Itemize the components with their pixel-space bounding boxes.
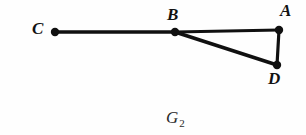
vertex-b [171, 28, 179, 36]
edge-a-d [277, 30, 279, 65]
graph-figure: A B C D G2 [0, 0, 306, 135]
figure-caption-base: G [166, 108, 178, 127]
figure-caption: G2 [166, 109, 185, 129]
edge-b-d [175, 32, 277, 65]
vertex-d [273, 61, 281, 69]
graph-canvas [0, 0, 306, 135]
edge-layer [55, 30, 279, 65]
edge-b-a [175, 30, 279, 32]
vertex-label-b: B [167, 6, 178, 23]
vertex-label-d: D [268, 70, 280, 87]
vertex-label-a: A [280, 2, 291, 19]
vertex-label-c: C [32, 20, 43, 37]
figure-caption-subscript: 2 [178, 117, 185, 129]
vertex-a [275, 26, 283, 34]
vertex-c [51, 28, 59, 36]
